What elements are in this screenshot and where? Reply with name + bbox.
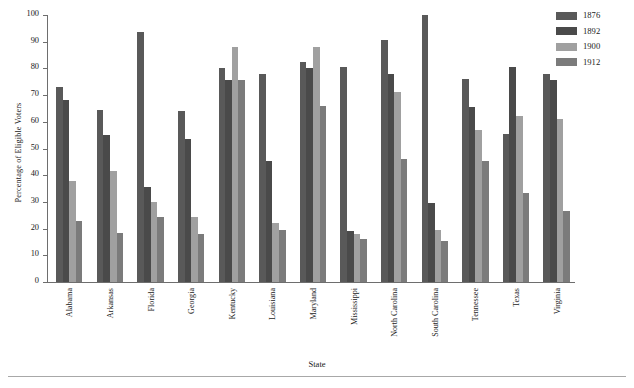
x-category-label-wrap: Louisiana [259,288,285,358]
legend-swatch-icon [556,27,577,35]
bar [259,74,266,282]
legend-label: 1900 [583,42,600,51]
legend-swatch-icon [556,12,577,20]
legend-item[interactable]: 1912 [556,56,628,69]
x-category-label: Maryland [308,288,317,319]
x-category-label-wrap: Texas [503,288,529,358]
x-category-label: South Carolina [430,288,439,337]
y-axis-tick: 80 [43,68,48,69]
y-axis-tick-label: 80 [31,62,39,71]
x-category-label-wrap: Mississippi [340,288,366,358]
x-category-label: Florida [146,288,155,311]
y-axis-tick: 20 [43,229,48,230]
legend-label: 1892 [583,27,600,36]
x-category-label-wrap: Virginia [543,288,569,358]
y-axis-tick-label: 10 [31,249,39,258]
legend-label: 1876 [583,11,600,20]
bar-group [422,15,448,282]
bar [300,62,307,282]
bar [232,47,239,282]
x-category-label: Louisiana [268,288,277,320]
bar-group [340,15,366,282]
bar-group [300,15,326,282]
bar [441,241,448,282]
bar [462,79,469,282]
bar-chart: Percentage of Eligible Voters 1009080706… [0,0,634,388]
bar [422,15,429,282]
bar [144,187,151,282]
y-axis-tick-label: 0 [35,276,39,285]
x-category-label-wrap: Tennessee [462,288,488,358]
bar [97,110,104,282]
bar [69,181,76,282]
bar [503,134,510,282]
y-axis-tick: 10 [43,255,48,256]
bar-group [219,15,245,282]
x-category-label: Virginia [552,288,561,314]
bar [482,161,489,282]
bar [225,80,232,282]
bar [157,217,164,282]
bar-group [259,15,285,282]
bar [557,119,564,282]
bar [266,161,273,282]
bar [272,223,279,282]
bar [63,100,70,282]
bar-group [137,15,163,282]
y-axis-tick-label: 40 [31,169,39,178]
bar [313,47,320,282]
bar [238,80,245,282]
bar [76,221,83,282]
bar [320,106,327,282]
x-axis-title: State [0,359,634,369]
legend-swatch-icon [556,58,577,66]
bar [279,230,286,282]
bar [523,193,530,282]
bar [475,130,482,282]
bar [185,139,192,282]
bar [117,233,124,282]
chart-legend: 1876189219001912 [556,9,628,71]
legend-swatch-icon [556,43,577,51]
bar [401,159,408,282]
x-axis-line [47,282,575,283]
x-category-label: Kentucky [227,288,236,319]
bar [516,116,523,282]
bar [137,32,144,282]
bar [428,203,435,282]
y-axis-tick-label: 90 [31,36,39,45]
bar [388,74,395,282]
legend-item[interactable]: 1876 [556,9,628,22]
y-axis-tick: 30 [43,202,48,203]
bar [340,67,347,282]
bar [110,171,117,282]
x-category-label: Georgia [187,288,196,314]
bar-group [503,15,529,282]
legend-item[interactable]: 1900 [556,40,628,53]
legend-item[interactable]: 1892 [556,25,628,38]
y-axis-tick: 90 [43,42,48,43]
x-category-label: Mississippi [349,288,358,325]
bar-group [97,15,123,282]
bar [198,234,205,282]
x-category-label-wrap: Florida [137,288,163,358]
bar-group [462,15,488,282]
bar [219,68,226,282]
y-axis-tick: 50 [43,149,48,150]
bar [394,92,401,282]
y-axis-tick: 60 [43,122,48,123]
y-axis-tick: 100 [43,15,48,16]
x-category-label-wrap: Kentucky [219,288,245,358]
bar [347,231,354,282]
x-category-label-wrap: Alabama [56,288,82,358]
legend-label: 1912 [583,58,600,67]
x-category-label: Alabama [65,288,74,317]
bar [435,230,442,282]
x-category-label: Texas [512,288,521,307]
bar [151,202,158,282]
y-axis-tick-label: 50 [31,143,39,152]
x-category-label: Tennessee [471,288,480,321]
bar [306,68,313,282]
bar [509,67,516,282]
bar [360,239,367,282]
